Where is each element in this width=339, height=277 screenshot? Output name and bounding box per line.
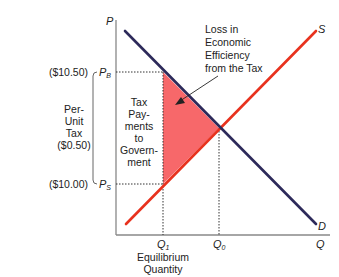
q0-label: Q0 [213, 238, 226, 251]
deadweight-loss-area [163, 72, 219, 184]
tax-payments-text: Tax Pay- ments to Govern- ment [120, 96, 158, 168]
loss-arrow [180, 76, 218, 101]
svg-text:($0.50): ($0.50) [57, 139, 90, 151]
svg-text:from the Tax: from the Tax [205, 62, 263, 74]
seller-price-value: ($10.00) [49, 178, 88, 190]
svg-text:Economic: Economic [205, 36, 251, 48]
per-unit-tax-bracket [93, 72, 97, 184]
svg-text:Govern-: Govern- [120, 144, 158, 156]
svg-text:ments: ments [125, 120, 154, 132]
svg-text:Tax: Tax [66, 127, 83, 139]
tax-diagram: P Q S D ($10.50) PB ($10.00) PS Per- Uni… [0, 0, 339, 277]
per-unit-tax-text: Per- Unit Tax ($0.50) [57, 103, 90, 151]
svg-text:Efficiency: Efficiency [205, 49, 250, 61]
x-axis-label: Q [316, 238, 325, 250]
q1-caption-line2: Quantity [143, 263, 183, 275]
svg-text:ment: ment [127, 156, 150, 168]
y-axis-label: P [106, 15, 114, 27]
svg-text:Unit: Unit [65, 115, 84, 127]
q1-caption-line1: Equilibrium [137, 251, 189, 263]
seller-price-label: PS [99, 178, 111, 191]
svg-text:Per-: Per- [64, 103, 84, 115]
deadweight-loss-annotation: Loss in Economic Efficiency from the Tax [205, 23, 263, 74]
demand-label: D [318, 220, 326, 232]
buyer-price-label: PB [99, 66, 111, 79]
supply-label: S [318, 23, 326, 35]
svg-text:Tax: Tax [131, 96, 148, 108]
svg-text:to: to [135, 132, 144, 144]
svg-text:Pay-: Pay- [128, 108, 150, 120]
q1-label: Q1 [157, 238, 170, 251]
svg-text:Loss in: Loss in [205, 23, 238, 35]
buyer-price-value: ($10.50) [49, 66, 88, 78]
